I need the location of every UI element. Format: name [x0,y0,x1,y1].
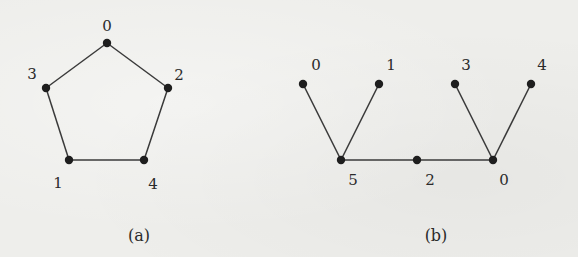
node-label: 5 [348,171,358,189]
node-label: 0 [102,17,112,35]
figure-b-caption: (b) [425,226,448,245]
figure-b-tree-graph: 0134520 (b) [299,56,547,245]
graph-node [527,80,535,88]
node-label: 4 [148,175,158,193]
node-label: 1 [53,174,63,192]
graph-edge [303,84,341,160]
node-label: 0 [311,56,321,74]
graph-node [103,39,111,47]
graph-node [42,84,50,92]
graph-edge [493,84,531,160]
node-label: 3 [461,56,471,74]
graph-edge [341,84,379,160]
graph-figure: 03214 (a) 0134520 (b) [0,0,578,257]
figure-a-nodes [42,39,172,164]
graph-node [413,156,421,164]
figure-a-caption: (a) [128,226,150,245]
graph-edge [455,84,493,160]
figure-a-pentagon-graph: 03214 (a) [27,17,184,245]
graph-edge [144,88,168,160]
figure-b-edges [303,84,531,160]
node-label: 2 [425,171,435,189]
graph-node [299,80,307,88]
node-label: 4 [537,56,547,74]
graph-node [65,156,73,164]
graph-edge [46,43,107,88]
graph-edge [107,43,168,88]
figure-a-edges [46,43,168,160]
graph-edge [46,88,69,160]
graph-node [164,84,172,92]
node-label: 2 [174,66,184,84]
figure-b-nodes [299,80,535,164]
graph-node [375,80,383,88]
graph-node [451,80,459,88]
graph-node [140,156,148,164]
node-label: 1 [386,56,396,74]
graph-node [337,156,345,164]
node-label: 0 [499,171,509,189]
node-label: 3 [27,65,37,83]
graph-node [489,156,497,164]
